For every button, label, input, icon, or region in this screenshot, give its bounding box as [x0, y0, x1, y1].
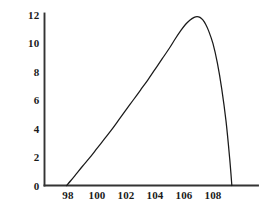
- chart-background: [0, 0, 267, 212]
- x-tick-label-100: 100: [88, 190, 105, 201]
- y-tick-label-8: 8: [34, 66, 40, 77]
- y-tick-label-6: 6: [34, 95, 40, 106]
- y-tick-label-4: 4: [34, 123, 40, 134]
- x-tick-label-102: 102: [117, 190, 134, 201]
- y-tick-label-2: 2: [34, 152, 40, 163]
- x-tick-label-98: 98: [62, 190, 73, 201]
- plot-area: [0, 0, 267, 212]
- x-tick-label-104: 104: [146, 190, 163, 201]
- y-tick-label-0: 0: [34, 180, 40, 191]
- x-tick-label-108: 108: [204, 190, 221, 201]
- y-tick-label-12: 12: [28, 9, 39, 20]
- x-tick-label-106: 106: [175, 190, 192, 201]
- chart-container: 024681012 98100102104106108: [0, 0, 267, 212]
- y-tick-label-10: 10: [28, 38, 39, 49]
